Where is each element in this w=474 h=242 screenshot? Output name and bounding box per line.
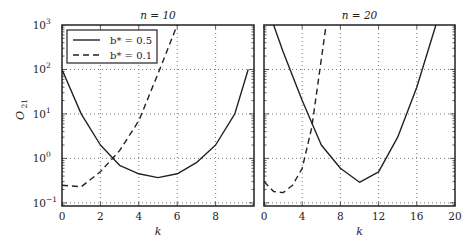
- y-tick-label: 10: [33, 19, 46, 31]
- x-tick-label: 12: [372, 210, 385, 222]
- x-tick-label: 4: [299, 210, 306, 222]
- y-tick-exponent: −1: [46, 195, 57, 204]
- chart-figure: 02468n = 10k10−1100101102103O21b* = 0.5b…: [0, 0, 474, 242]
- y-axis-label: O21: [14, 99, 29, 120]
- series-b01-line: [264, 25, 326, 193]
- x-tick-label: 16: [410, 210, 424, 222]
- svg-text:O: O: [14, 111, 27, 120]
- x-tick-label: 6: [174, 210, 181, 222]
- x-axis-label: k: [356, 225, 363, 238]
- series-b05-line: [62, 70, 248, 178]
- y-tick-exponent: 0: [46, 150, 51, 159]
- x-tick-label: 0: [59, 210, 66, 222]
- legend: b* = 0.5b* = 0.1: [67, 30, 157, 63]
- legend-label-b01: b* = 0.1: [110, 50, 152, 61]
- svg-text:21: 21: [20, 99, 29, 109]
- legend-label-b05: b* = 0.5: [110, 35, 152, 46]
- y-tick-label: 10: [33, 108, 46, 120]
- y-tick-label: 10: [33, 197, 46, 209]
- x-tick-label: 4: [135, 210, 142, 222]
- panel-title: n = 20: [342, 9, 378, 21]
- x-tick-label: 20: [448, 210, 461, 222]
- y-tick-exponent: 2: [46, 61, 51, 70]
- panel-n10: 02468n = 10k10−1100101102103O21b* = 0.5b…: [14, 9, 254, 238]
- panel-title: n = 10: [140, 9, 176, 21]
- y-tick-exponent: 1: [46, 106, 51, 115]
- y-tick-label: 10: [33, 63, 46, 75]
- y-tick-exponent: 3: [46, 17, 51, 26]
- x-tick-label: 2: [97, 210, 104, 222]
- plot-frame: [264, 25, 455, 206]
- x-tick-label: 0: [261, 210, 268, 222]
- x-tick-label: 8: [212, 210, 219, 222]
- x-tick-label: 8: [337, 210, 344, 222]
- x-axis-label: k: [155, 225, 162, 238]
- series-b05-line: [274, 25, 436, 182]
- y-tick-label: 10: [33, 152, 46, 164]
- panel-n20: 048121620n = 20k: [261, 9, 462, 238]
